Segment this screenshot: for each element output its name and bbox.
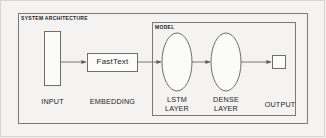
- model-group-title: MODEL: [155, 24, 175, 30]
- node-lstm-shape[interactable]: [162, 33, 192, 91]
- node-lstm-label-line1: LSTM: [152, 95, 202, 104]
- node-dense-label-line2: LAYER: [201, 104, 251, 113]
- embedding-inner-label: FastText: [87, 57, 138, 66]
- node-input-label: INPUT: [27, 97, 78, 106]
- node-lstm-label-line2: LAYER: [152, 104, 202, 113]
- node-output-shape[interactable]: [273, 56, 286, 69]
- node-dense-shape[interactable]: [211, 33, 241, 91]
- system-architecture-title: SYSTEM ARCHITECTURE: [21, 15, 88, 21]
- node-embedding-label: EMBEDDING: [79, 97, 146, 106]
- diagram-canvas: SYSTEM ARCHITECTURE MODEL FastText INPUT…: [0, 0, 326, 138]
- node-input-shape[interactable]: [45, 32, 61, 86]
- node-dense-label-line1: DENSE: [201, 95, 251, 104]
- node-output-label: OUTPUT: [255, 100, 305, 109]
